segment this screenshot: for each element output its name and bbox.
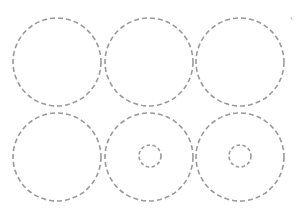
large-circle-r1-c3 — [196, 18, 284, 106]
corner-mark — [291, 17, 292, 20]
large-circle-r2-c1 — [13, 113, 101, 201]
large-circle-r2-c3 — [196, 113, 284, 201]
large-circle-r1-c2 — [105, 18, 193, 106]
large-circle-r1-c1 — [13, 18, 101, 106]
dashed-circle-grid — [0, 0, 296, 214]
small-circle-r2-c3 — [229, 145, 251, 167]
large-circle-r2-c2 — [105, 113, 193, 201]
small-circle-r2-c2 — [139, 145, 161, 167]
